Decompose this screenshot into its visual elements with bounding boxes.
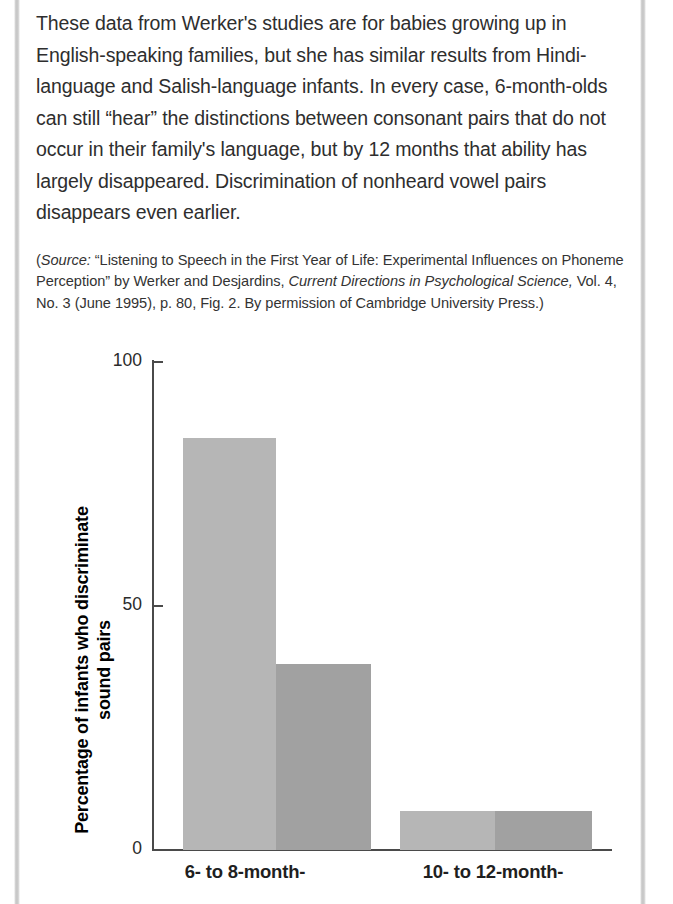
- source-citation: (Source: “Listening to Speech in the Fir…: [36, 229, 628, 315]
- plot-area: [154, 360, 612, 850]
- source-journal-name: Current Directions in Psychological Scie…: [289, 273, 573, 289]
- bar-6to8-nonheard: [276, 664, 371, 850]
- y-tick-label-50: 50: [78, 594, 142, 615]
- x-axis-label-group-2: 10- to 12-month-: [368, 860, 618, 884]
- y-axis-title: Percentage of infants who discriminate s…: [71, 505, 115, 835]
- source-label: Source:: [41, 252, 91, 268]
- y-tick-label-100: 100: [78, 350, 142, 371]
- bar-10to12-heard: [400, 811, 495, 850]
- y-tick-label-0: 0: [78, 838, 142, 859]
- bar-chart: Percentage of infants who discriminate s…: [0, 330, 673, 904]
- x-axis-label-group-1: 6- to 8-month-: [120, 860, 370, 884]
- bar-6to8-heard: [183, 438, 276, 850]
- bar-10to12-nonheard: [495, 811, 592, 850]
- text-column: These data from Werker's studies are for…: [36, 0, 628, 314]
- body-paragraph: These data from Werker's studies are for…: [36, 0, 628, 229]
